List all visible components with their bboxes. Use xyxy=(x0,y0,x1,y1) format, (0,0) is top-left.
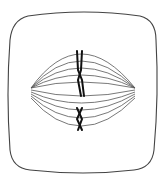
chromosome-lower xyxy=(77,108,82,130)
chromosome-upper xyxy=(77,51,84,96)
metaphase-cell-diagram xyxy=(0,0,168,181)
